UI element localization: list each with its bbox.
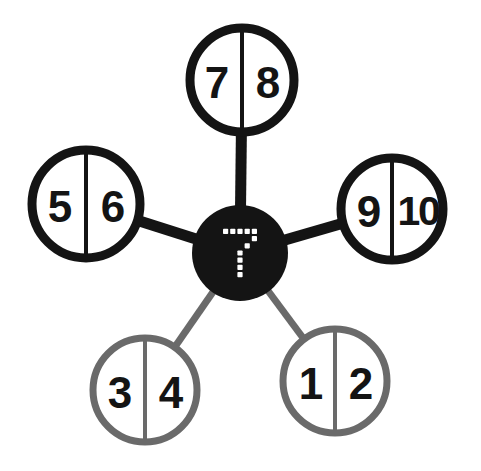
hub-label-dot — [237, 265, 242, 270]
hub-label-dot — [245, 229, 250, 234]
node-bottom-right-left-value: 1 — [299, 359, 323, 408]
node-bottom-left-left-value: 3 — [108, 368, 132, 417]
node-top[interactable]: 7 8 — [190, 28, 294, 132]
hub-label-dot — [252, 236, 257, 241]
node-top-right-value: 8 — [256, 58, 280, 107]
node-left-right-value: 6 — [101, 182, 125, 231]
hub-label-dot — [230, 229, 235, 234]
hub-label-dot — [237, 272, 242, 277]
node-left-left-value: 5 — [48, 182, 72, 231]
hub-label-dot — [252, 229, 257, 234]
hub-label-dot — [237, 258, 242, 263]
radial-node-diagram: 7 8 5 6 9 10 3 4 1 2 — [0, 0, 481, 471]
hub-label-dot — [237, 250, 242, 255]
node-bottom-left-right-value: 4 — [159, 368, 184, 417]
node-left[interactable]: 5 6 — [32, 150, 140, 258]
radial-diagram-canvas: 7 8 5 6 9 10 3 4 1 2 — [0, 0, 481, 471]
node-bottom-left[interactable]: 3 4 — [93, 338, 197, 442]
hub-node[interactable] — [192, 205, 288, 301]
node-top-left-value: 7 — [205, 58, 229, 107]
node-right[interactable]: 9 10 — [341, 158, 443, 260]
node-bottom-right-right-value: 2 — [349, 359, 373, 408]
node-right-left-value: 9 — [357, 187, 381, 236]
hub-label-dot — [245, 243, 250, 248]
hub-label-dot — [223, 229, 228, 234]
node-bottom-right[interactable]: 1 2 — [283, 329, 387, 433]
node-right-right-value: 10 — [397, 188, 440, 234]
hub-label-dot — [237, 229, 242, 234]
